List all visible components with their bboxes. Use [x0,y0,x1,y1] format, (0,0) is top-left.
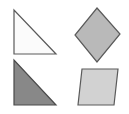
gray-diamond [75,8,120,62]
white-right-triangle [14,10,56,54]
light-parallelogram [78,69,118,105]
shapes-diagram [0,0,129,114]
dark-right-triangle [14,60,56,105]
